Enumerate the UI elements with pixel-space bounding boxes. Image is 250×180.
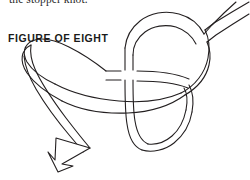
direction-arrowhead [48, 138, 90, 172]
left-outer-bight-upper-edge [24, 39, 106, 84]
upper-loop-inner-edge [133, 26, 196, 55]
standing-end-lower-edge-a [204, 2, 236, 34]
mid-horizontal-strand-lower-b [137, 81, 188, 88]
right-bight-outer-edge [181, 30, 209, 93]
working-end-upper-edge [31, 45, 90, 148]
figure-of-eight-knot-drawing [0, 0, 250, 180]
upper-loop-outer-edge [125, 12, 204, 48]
bottom-bight-outer-edge [142, 112, 192, 151]
diagonal-over-strand-upper-edge [55, 84, 181, 102]
knot-svg [0, 0, 250, 180]
standing-end-upper-outer-edge-b [207, 14, 249, 42]
rope-strand-group [22, 2, 249, 152]
mid-horizontal-strand-upper-b [137, 71, 189, 79]
working-end-lower-edge [24, 56, 83, 152]
bottom-bight-inner-edge [148, 110, 186, 144]
right-limb-outer-edge [189, 85, 193, 112]
illustration-page: the stopper knot. FIGURE OF EIGHT [0, 0, 250, 180]
right-bight-inner-edge [185, 42, 210, 95]
arrowhead-shape [48, 138, 90, 172]
